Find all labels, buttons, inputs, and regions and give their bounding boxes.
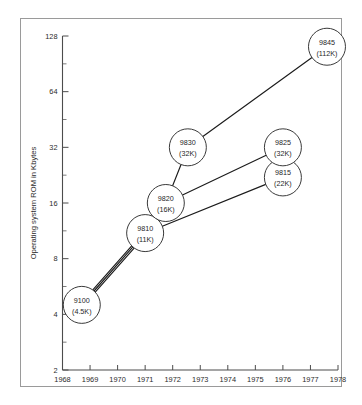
y-axis-tick-labels: 248163264128 — [45, 32, 57, 375]
x-tick-label-1976: 1976 — [275, 375, 291, 384]
data-point-9825[interactable]: 9825(32K) — [264, 129, 301, 166]
y-tick-label-2: 2 — [53, 366, 57, 375]
node-sublabel-9815: (22K) — [274, 179, 292, 188]
node-label-9820: 9820 — [158, 194, 174, 203]
x-tick-label-1975: 1975 — [247, 375, 263, 384]
node-label-9810: 9810 — [137, 224, 153, 233]
chart-figure: 248163264128 196819691970197119721973197… — [0, 0, 362, 405]
y-tick-label-8: 8 — [53, 254, 57, 263]
node-label-9815: 9815 — [275, 168, 291, 177]
data-point-nodes: 9100(4.5K)9810(11K)9820(16K)9830(32K)981… — [63, 28, 345, 323]
x-tick-label-1977: 1977 — [302, 375, 318, 384]
node-sublabel-9845: (112K) — [316, 49, 337, 58]
node-label-9100: 9100 — [74, 296, 90, 305]
x-tick-label-1968: 1968 — [54, 375, 70, 384]
y-axis-major-ticks — [63, 36, 69, 370]
y-tick-label-64: 64 — [49, 87, 57, 96]
x-tick-label-1969: 1969 — [82, 375, 98, 384]
connection-9820-to-9830 — [173, 165, 181, 186]
node-label-9845: 9845 — [319, 38, 335, 47]
connection-9100-to-9810 — [95, 248, 134, 292]
y-tick-label-16: 16 — [49, 199, 57, 208]
connection-9100-to-9810 — [93, 246, 132, 290]
x-tick-label-1970: 1970 — [109, 375, 125, 384]
node-circle-9820 — [147, 185, 184, 222]
node-sublabel-9830: (32K) — [179, 149, 197, 158]
node-sublabel-9100: (4.5K) — [72, 307, 92, 316]
connection-9100-to-9810 — [94, 247, 133, 291]
rom-growth-scatter-chart: 248163264128 196819691970197119721973197… — [0, 0, 362, 405]
node-sublabel-9825: (32K) — [274, 149, 292, 158]
data-point-9830[interactable]: 9830(32K) — [169, 129, 206, 166]
data-point-9845[interactable]: 9845(112K) — [308, 28, 345, 65]
data-point-9100[interactable]: 9100(4.5K) — [63, 286, 100, 323]
y-tick-label-128: 128 — [45, 32, 57, 41]
y-tick-label-4: 4 — [53, 310, 57, 319]
x-tick-label-1972: 1972 — [164, 375, 180, 384]
node-sublabel-9810: (11K) — [137, 235, 154, 244]
x-tick-label-1973: 1973 — [192, 375, 208, 384]
data-point-9820[interactable]: 9820(16K) — [147, 185, 184, 222]
node-sublabel-9820: (16K) — [157, 205, 175, 214]
x-axis-major-ticks — [63, 365, 339, 370]
y-tick-label-32: 32 — [49, 143, 57, 152]
x-axis-tick-labels: 1968196919701971197219731974197519761977… — [54, 375, 346, 384]
x-tick-label-1974: 1974 — [220, 375, 236, 384]
y-axis-title: Operating system ROM in Kbytes — [29, 146, 38, 259]
x-tick-label-1971: 1971 — [137, 375, 153, 384]
connection-9830-to-9845 — [203, 58, 312, 137]
node-label-9825: 9825 — [275, 138, 291, 147]
x-tick-label-1978: 1978 — [330, 375, 346, 384]
node-label-9830: 9830 — [180, 138, 196, 147]
